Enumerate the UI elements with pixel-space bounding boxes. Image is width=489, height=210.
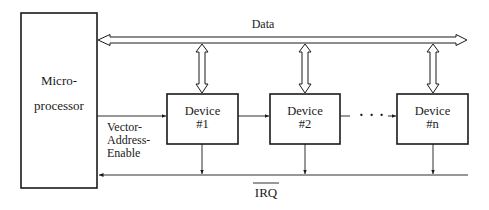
vae-chain: · · · Vector- Address- Enable (97, 108, 396, 160)
microprocessor-label-line1: Micro- (41, 73, 77, 88)
device-1-number: #1 (196, 117, 209, 131)
data-bus: Data (98, 17, 467, 46)
vae-label-line3: Enable (107, 146, 140, 160)
microprocessor-block: Micro- processor (21, 13, 97, 188)
device-1: Device #1 (167, 94, 238, 144)
device-n: Device #n (397, 94, 468, 144)
device-1-label: Device (185, 104, 221, 118)
ellipsis: · · · (359, 108, 385, 123)
device-2-label: Device (287, 104, 323, 118)
bus-connector-n (427, 44, 439, 93)
irq-line: IRQ (99, 144, 468, 200)
daisy-chain-diagram: Micro- processor Data Device #1 Device #… (0, 0, 489, 210)
bus-connector-1 (196, 44, 208, 93)
device-n-label: Device (415, 104, 451, 118)
device-n-number: #n (426, 117, 439, 131)
microprocessor-label-line2: processor (34, 98, 84, 113)
bus-connector-2 (299, 44, 311, 93)
vae-label-line1: Vector- (107, 120, 142, 134)
vae-label-line2: Address- (107, 133, 150, 147)
device-2: Device #2 (270, 94, 340, 144)
device-2-number: #2 (299, 117, 312, 131)
data-bus-label: Data (252, 17, 275, 31)
irq-label: IRQ (255, 185, 278, 200)
